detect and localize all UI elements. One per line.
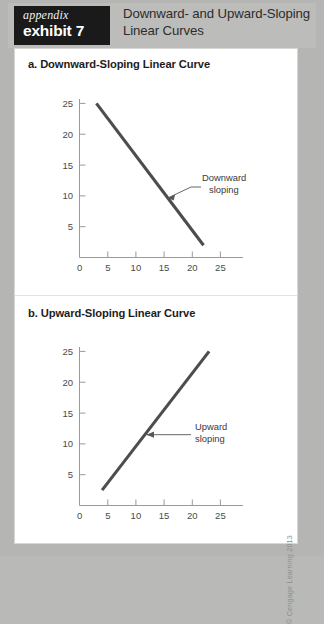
chart-a-annotation-line1: Downward xyxy=(202,172,246,183)
chart-a-curve xyxy=(96,103,203,245)
chart-a-y-tick-labels: 25 20 15 10 5 xyxy=(62,98,73,232)
chart-a-xtick-15: 15 xyxy=(159,262,170,273)
chart-b: 25 20 15 10 5 0 5 xyxy=(15,329,297,534)
chart-a-annotation-line2: sloping xyxy=(209,184,239,195)
chart-b-x-tick-labels: 0 5 10 15 20 25 xyxy=(77,510,226,521)
chart-b-title: b. Upward-Sloping Linear Curve xyxy=(28,307,195,319)
section-divider xyxy=(15,295,297,296)
chart-a-x-ticks xyxy=(108,252,221,258)
chart-a-xtick-0: 0 xyxy=(77,262,82,273)
chart-a-x-tick-labels: 0 5 10 15 20 25 xyxy=(77,262,226,273)
chart-a-y-ticks xyxy=(80,103,86,226)
exhibit-badge: appendix exhibit 7 xyxy=(14,6,110,45)
chart-b-xtick-20: 20 xyxy=(187,510,198,521)
chart-b-ytick-20: 20 xyxy=(62,377,73,388)
chart-a-annotation: Downward sloping xyxy=(168,172,246,200)
chart-b-xtick-25: 25 xyxy=(215,510,226,521)
copyright-notice: © Cengage Learning 2013 xyxy=(285,535,294,624)
chart-b-annotation: Upward sloping xyxy=(147,421,228,444)
chart-a-xtick-25: 25 xyxy=(215,262,226,273)
badge-exhibit-label: exhibit 7 xyxy=(23,22,110,39)
exhibit-title: Downward- and Upward-Sloping Linear Curv… xyxy=(123,6,313,39)
chart-b-x-ticks xyxy=(108,500,221,506)
chart-b-svg: 25 20 15 10 5 0 5 xyxy=(15,329,297,534)
chart-b-xtick-5: 5 xyxy=(105,510,110,521)
chart-a-svg: 25 20 15 10 5 0 5 xyxy=(15,81,297,286)
chart-a-ytick-10: 10 xyxy=(62,190,73,201)
chart-a-ytick-20: 20 xyxy=(62,129,73,140)
chart-b-annotation-line2: sloping xyxy=(195,433,225,444)
chart-a-ytick-25: 25 xyxy=(62,98,73,109)
chart-b-ytick-10: 10 xyxy=(62,438,73,449)
chart-a: 25 20 15 10 5 0 5 xyxy=(15,81,297,286)
chart-b-annotation-line1: Upward xyxy=(195,421,227,432)
exhibit-header: appendix exhibit 7 Downward- and Upward-… xyxy=(8,3,316,48)
chart-b-curve xyxy=(102,351,209,490)
chart-b-ytick-5: 5 xyxy=(68,469,73,480)
chart-b-ytick-15: 15 xyxy=(62,408,73,419)
chart-a-ytick-15: 15 xyxy=(62,160,73,171)
chart-b-xtick-10: 10 xyxy=(131,510,142,521)
chart-b-y-tick-labels: 25 20 15 10 5 xyxy=(62,346,73,480)
chart-a-xtick-10: 10 xyxy=(131,262,142,273)
chart-b-ytick-25: 25 xyxy=(62,346,73,357)
chart-b-xtick-0: 0 xyxy=(77,510,82,521)
chart-a-xtick-5: 5 xyxy=(105,262,110,273)
badge-appendix-label: appendix xyxy=(23,9,110,22)
chart-b-y-ticks xyxy=(80,351,86,474)
chart-b-xtick-15: 15 xyxy=(159,510,170,521)
chart-a-xtick-20: 20 xyxy=(187,262,198,273)
chart-a-ytick-5: 5 xyxy=(68,221,73,232)
chart-a-title: a. Downward-Sloping Linear Curve xyxy=(28,58,210,70)
exhibit-panel: a. Downward-Sloping Linear Curve 25 20 xyxy=(15,49,297,543)
